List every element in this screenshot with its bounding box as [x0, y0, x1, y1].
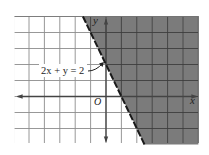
- inequality-graph: y x O 2x + y = 2: [0, 0, 209, 155]
- y-axis-label: y: [92, 14, 98, 26]
- origin-label: O: [94, 96, 101, 107]
- x-axis-label: x: [189, 94, 195, 106]
- equation-label: 2x + y = 2: [41, 65, 84, 76]
